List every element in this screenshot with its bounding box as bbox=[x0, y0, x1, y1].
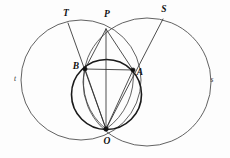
segment-B-A bbox=[85, 69, 133, 70]
circle-t bbox=[21, 20, 141, 140]
point-label-B: B bbox=[72, 61, 79, 71]
geometry-figure: T P S B A O t s bbox=[0, 0, 230, 158]
curve-label-t: t bbox=[14, 74, 17, 83]
segment-O-S bbox=[106, 19, 163, 129]
point-label-A: A bbox=[136, 67, 143, 77]
point-dot-A bbox=[131, 68, 135, 72]
point-dot-O bbox=[104, 127, 109, 132]
point-dot-B bbox=[83, 67, 87, 71]
circle-s bbox=[83, 18, 211, 146]
geometry-canvas: T P S B A O t s bbox=[0, 0, 230, 158]
point-label-P: P bbox=[104, 9, 110, 19]
point-label-T: T bbox=[63, 8, 70, 18]
segment-P-A bbox=[106, 29, 133, 70]
curve-label-s: s bbox=[211, 75, 214, 84]
segment-P-B bbox=[85, 29, 106, 69]
point-label-O: O bbox=[104, 136, 111, 146]
point-label-S: S bbox=[161, 4, 166, 14]
